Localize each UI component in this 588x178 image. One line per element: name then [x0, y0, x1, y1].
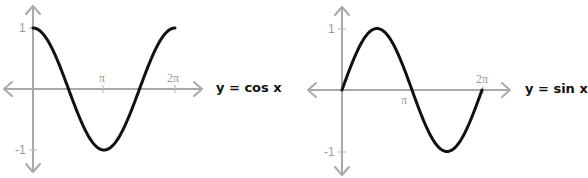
- sin-chart: 1 -1 π 2π: [308, 7, 510, 175]
- sin-y-label-neg1: -1: [324, 145, 335, 159]
- cos-chart-title: y = cos x: [216, 80, 282, 95]
- cos-y-label-neg1: -1: [15, 143, 26, 157]
- sin-y-label-1: 1: [328, 22, 335, 36]
- cos-x-label-pi: π: [99, 71, 105, 85]
- sin-chart-title: y = sin x: [525, 81, 588, 96]
- cos-y-label-1: 1: [19, 21, 26, 35]
- sin-x-label-pi: π: [401, 93, 407, 107]
- sin-x-label-2pi: 2π: [476, 72, 488, 86]
- cos-x-label-2pi: 2π: [167, 71, 179, 85]
- cos-chart: 1 -1 π 2π: [4, 6, 202, 172]
